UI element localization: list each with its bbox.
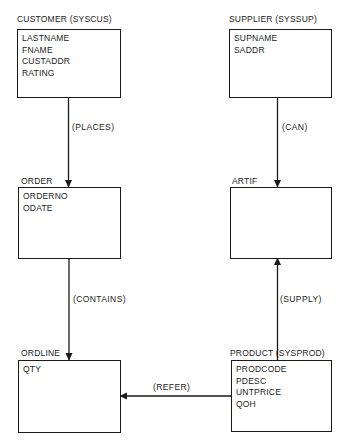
attribute-qty: QTY	[23, 364, 41, 376]
attribute-odate: ODATE	[23, 203, 68, 215]
attribute-lastname: LASTNAME	[22, 33, 70, 45]
attribute-custaddr: CUSTADDR	[22, 56, 70, 68]
refer-relationship-label: (REFER)	[153, 382, 190, 392]
supply-relationship-label: (SUPPLY)	[280, 294, 322, 304]
er-diagram: CUSTOMER (SYSCUS) LASTNAME FNAME CUSTADD…	[0, 0, 346, 445]
ordline-entity-box: QTY	[18, 360, 121, 433]
customer-attribute-list: LASTNAME FNAME CUSTADDR RATING	[22, 33, 70, 79]
attribute-qoh: QOH	[236, 399, 287, 411]
attribute-rating: RATING	[22, 68, 70, 80]
product-entity-box: PRODCODE PDESC UNTPRICE QOH	[231, 360, 332, 432]
customer-entity-label: CUSTOMER (SYSCUS)	[17, 14, 112, 24]
ordline-entity-label: ORDLINE	[21, 348, 60, 358]
contains-relationship-label: (CONTAINS)	[73, 294, 126, 304]
attribute-supname: SUPNAME	[234, 33, 277, 45]
supplier-attribute-list: SUPNAME SADDR	[234, 33, 277, 56]
attribute-pdesc: PDESC	[236, 376, 287, 388]
attribute-untprice: UNTPRICE	[236, 387, 287, 399]
attribute-saddr: SADDR	[234, 45, 277, 57]
supplier-entity-label: SUPPLIER (SYSSUP)	[229, 14, 317, 24]
ordline-attribute-list: QTY	[23, 364, 41, 376]
order-attribute-list: ORDERNO ODATE	[23, 191, 68, 214]
artif-entity-box	[230, 187, 332, 259]
attribute-fname: FNAME	[22, 45, 70, 57]
supplier-entity-box: SUPNAME SADDR	[229, 29, 332, 98]
places-relationship-label: (PLACES)	[72, 122, 114, 132]
product-entity-label: PRODUCT (SYSPROD)	[230, 348, 325, 358]
product-attribute-list: PRODCODE PDESC UNTPRICE QOH	[236, 364, 287, 410]
customer-entity-box: LASTNAME FNAME CUSTADDR RATING	[17, 29, 121, 98]
attribute-prodcode: PRODCODE	[236, 364, 287, 376]
order-entity-label: ORDER	[21, 176, 53, 186]
order-entity-box: ORDERNO ODATE	[18, 187, 121, 259]
attribute-orderno: ORDERNO	[23, 191, 68, 203]
artif-entity-label: ARTIF	[232, 176, 257, 186]
can-relationship-label: (CAN)	[282, 122, 308, 132]
